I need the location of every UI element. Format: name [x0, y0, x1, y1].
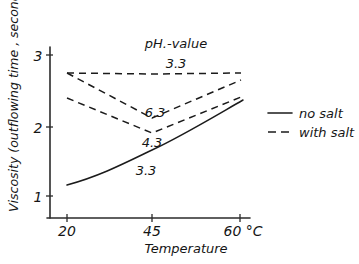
y-axis-title: Viscosity (outflowing time , seconds ) — [6, 0, 21, 212]
chart-canvas: 3 2 1 20 45 60 °C Temperature Viscosity … — [0, 0, 359, 264]
series-label-ph33-no-salt: 3.3 — [136, 163, 157, 178]
y-tick-label-1: 1 — [34, 189, 43, 205]
series-label-ph43-with-salt: 4.3 — [142, 135, 163, 150]
legend-label-with-salt: with salt — [299, 125, 355, 140]
x-tick-label-60: 60 °C — [223, 223, 262, 239]
series-line-ph33-with-salt — [67, 73, 241, 74]
y-tick-label-2: 2 — [34, 120, 43, 136]
x-tick-label-45: 45 — [143, 223, 161, 239]
x-axis-title: Temperature — [144, 241, 227, 256]
series-label-ph33-with-salt: 3.3 — [166, 56, 187, 71]
viscosity-temperature-chart: 3 2 1 20 45 60 °C Temperature Viscosity … — [0, 0, 359, 264]
y-tick-label-3: 3 — [34, 48, 43, 64]
series-label-ph63-with-salt: 6.3 — [145, 105, 166, 120]
x-tick-label-20: 20 — [58, 223, 76, 239]
ph-value-group-title: pH.-value — [144, 36, 207, 51]
legend-label-no-salt: no salt — [299, 106, 344, 121]
